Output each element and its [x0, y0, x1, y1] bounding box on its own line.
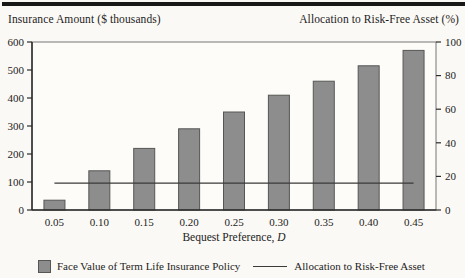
x-axis-tick-label: 0.45 [404, 216, 424, 228]
bar [134, 148, 155, 210]
bar [313, 81, 334, 210]
bar [179, 129, 200, 210]
x-axis-tick-label: 0.10 [90, 216, 110, 228]
bar [268, 95, 289, 210]
x-axis-tick-label: 0.25 [224, 216, 244, 228]
right-axis-tick-label: 80 [445, 69, 457, 81]
x-axis-title-text: Bequest Preference, [182, 231, 274, 243]
left-axis-tick-label: 200 [8, 148, 25, 160]
bar-legend-label: Face Value of Term Life Insurance Policy [57, 260, 240, 272]
x-axis-tick-label: 0.05 [45, 216, 65, 228]
bar-legend-swatch [38, 260, 51, 273]
legend: Face Value of Term Life Insurance Policy… [38, 258, 425, 274]
left-axis-tick-label: 500 [8, 64, 25, 76]
right-axis-tick-label: 40 [445, 137, 457, 149]
left-axis-tick-label: 0 [19, 204, 25, 216]
x-axis-tick-label: 0.15 [135, 216, 155, 228]
left-axis-tick-label: 600 [8, 36, 25, 48]
left-axis-tick-label: 100 [8, 176, 25, 188]
right-axis-tick-label: 0 [445, 204, 451, 216]
bar [89, 171, 110, 210]
line-legend-swatch [253, 266, 287, 267]
left-axis-tick-label: 400 [8, 92, 25, 104]
x-axis-title: Bequest Preference, D [32, 231, 436, 243]
left-axis-tick-label: 300 [8, 120, 25, 132]
right-axis-tick-label: 20 [445, 170, 457, 182]
x-axis-tick-label: 0.30 [269, 216, 289, 228]
bar [44, 200, 65, 210]
x-axis-title-variable: D [277, 231, 285, 243]
x-axis-tick-label: 0.40 [359, 216, 379, 228]
bar [358, 66, 379, 210]
x-axis-tick-label: 0.20 [179, 216, 199, 228]
right-axis-tick-label: 60 [445, 103, 457, 115]
bar [224, 112, 245, 210]
right-axis-tick-label: 100 [445, 36, 462, 48]
line-legend-label: Allocation to Risk-Free Asset [294, 260, 424, 272]
x-axis-tick-label: 0.35 [314, 216, 334, 228]
bar [403, 50, 424, 210]
